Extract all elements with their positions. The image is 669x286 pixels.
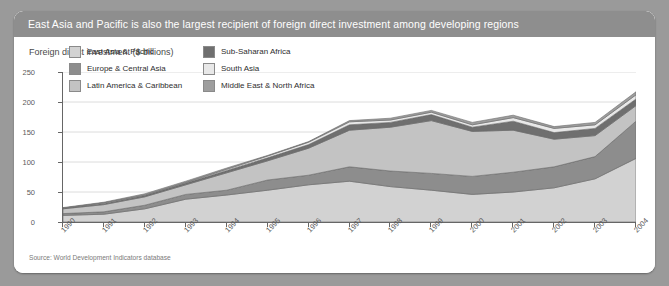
legend-item-label: Europe & Central Asia — [87, 64, 166, 73]
legend-item-label: Latin America & Caribbean — [87, 81, 182, 90]
y-axis-tick-mark — [58, 72, 62, 73]
y-axis-tick-mark — [58, 192, 62, 193]
legend-item: South Asia — [203, 63, 314, 75]
y-axis-tick-label: 250 — [14, 68, 35, 77]
legend-item-label: East Asia & Pacific — [87, 47, 154, 56]
legend-item-label: South Asia — [221, 64, 259, 73]
legend-swatch-icon — [69, 46, 81, 58]
legend-swatch-icon — [69, 80, 81, 92]
legend-swatch-icon — [203, 46, 215, 58]
legend-swatch-icon — [203, 80, 215, 92]
legend-swatch-icon — [69, 63, 81, 75]
legend-item: Sub-Saharan Africa — [203, 46, 314, 58]
stacked-area-chart — [63, 72, 636, 222]
legend-swatch-icon — [203, 63, 215, 75]
y-axis-tick-mark — [58, 162, 62, 163]
card-body: Foreign direct investment ($ billions) 0… — [14, 37, 655, 273]
y-axis-tick-label: 0 — [14, 218, 35, 227]
y-axis-tick-label: 50 — [14, 188, 35, 197]
y-axis-tick-mark — [58, 102, 62, 103]
chart-legend: East Asia & PacificSub-Saharan AfricaEur… — [69, 43, 314, 94]
y-axis-tick-label: 150 — [14, 128, 35, 137]
source-note: Source: World Development Indicators dat… — [29, 254, 171, 261]
legend-item: Middle East & North Africa — [203, 80, 314, 92]
page-title: East Asia and Pacific is also the larges… — [28, 18, 519, 30]
legend-item-label: Sub-Saharan Africa — [221, 47, 290, 56]
plot-area — [62, 72, 636, 223]
legend-item: Europe & Central Asia — [69, 63, 197, 75]
legend-item-label: Middle East & North Africa — [221, 81, 314, 90]
card-header: East Asia and Pacific is also the larges… — [14, 11, 655, 37]
y-axis-tick-label: 100 — [14, 158, 35, 167]
y-axis-tick-mark — [58, 132, 62, 133]
legend-item: East Asia & Pacific — [69, 46, 197, 58]
chart-card: East Asia and Pacific is also the larges… — [14, 11, 655, 273]
legend-item: Latin America & Caribbean — [69, 80, 197, 92]
y-axis-tick-label: 200 — [14, 98, 35, 107]
